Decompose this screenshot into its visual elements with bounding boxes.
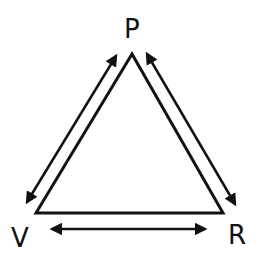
arrow-p-v	[27, 56, 116, 202]
triangle-diagram: P V R	[0, 0, 264, 260]
node-label-r: R	[228, 222, 246, 248]
arrow-p-r	[147, 54, 235, 204]
node-label-v: V	[11, 225, 29, 251]
node-label-p: P	[124, 16, 140, 42]
